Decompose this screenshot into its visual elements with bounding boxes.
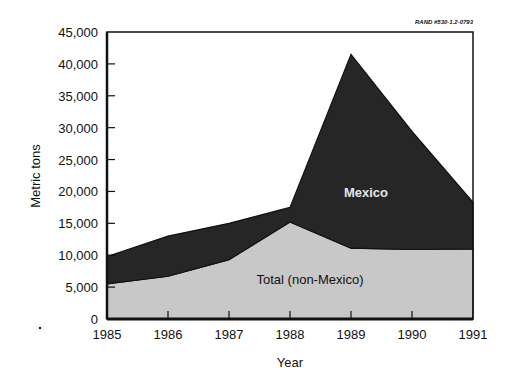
area-chart: RAND #530-1.2-0793 198519861987198819891… [0, 0, 507, 385]
label-total-non-mexico: Total (non-Mexico) [257, 272, 364, 287]
y-tick-label: 10,000 [58, 248, 98, 263]
x-tick-label: 1985 [93, 327, 122, 342]
x-axis-title: Year [277, 355, 304, 370]
y-tick-label: 45,000 [58, 25, 98, 40]
y-tick-label: 25,000 [58, 153, 98, 168]
y-axis-title: Metric tons [28, 144, 43, 208]
y-tick-label: 15,000 [58, 216, 98, 231]
y-tick-label: 30,000 [58, 121, 98, 136]
x-tick-label: 1989 [337, 327, 366, 342]
y-tick-label: 0 [91, 312, 98, 327]
x-tick-label: 1988 [276, 327, 305, 342]
y-tick-label: 20,000 [58, 184, 98, 199]
y-tick-label: 40,000 [58, 57, 98, 72]
x-tick-label: 1986 [154, 327, 183, 342]
x-tick-label: 1990 [398, 327, 427, 342]
source-note: RAND #530-1.2-0793 [415, 19, 474, 25]
label-mexico: Mexico [344, 185, 388, 200]
stray-dot [39, 327, 41, 329]
x-tick-label: 1991 [459, 327, 488, 342]
x-tick-label: 1987 [215, 327, 244, 342]
y-tick-label: 35,000 [58, 89, 98, 104]
y-tick-label: 5,000 [65, 280, 98, 295]
